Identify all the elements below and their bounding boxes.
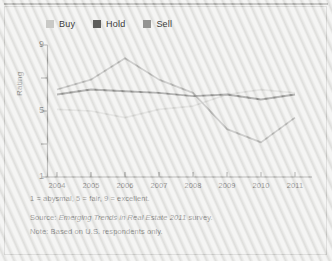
figure-container: Buy Hold Sell Rating 9 5 1 2004 2005 200…	[0, 0, 332, 261]
chart-legend: Buy Hold Sell	[46, 19, 172, 29]
footnotes-block: 1 = abysmal, 5 = fair, 9 = excellent. So…	[30, 194, 310, 237]
square-swatch-icon	[93, 20, 101, 28]
footnote-source: Source: Emerging Trends in Real Estate 2…	[30, 213, 310, 223]
series-line-hold	[57, 90, 295, 100]
legend-label-hold: Hold	[106, 19, 125, 29]
square-swatch-icon	[46, 20, 54, 28]
square-swatch-icon	[143, 20, 151, 28]
legend-item-buy[interactable]: Buy	[46, 19, 75, 29]
legend-item-hold[interactable]: Hold	[93, 19, 125, 29]
legend-label-buy: Buy	[59, 19, 75, 29]
footnote-source-title: Emerging Trends in Real Estate 2011	[59, 213, 186, 222]
legend-item-sell[interactable]: Sell	[143, 19, 172, 29]
x-axis-ticks	[57, 172, 295, 177]
footnote-source-prefix: Source:	[30, 213, 59, 222]
footnote-source-suffix: survey.	[186, 213, 213, 222]
legend-label-sell: Sell	[156, 19, 172, 29]
footnote-note: Note: Based on U.S. respondents only.	[30, 227, 310, 237]
series-line-sell	[57, 58, 295, 142]
footnote-scale: 1 = abysmal, 5 = fair, 9 = excellent.	[30, 194, 310, 204]
